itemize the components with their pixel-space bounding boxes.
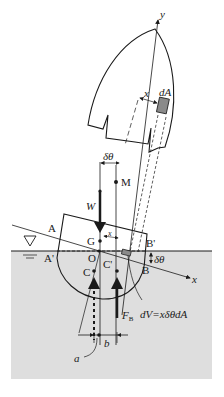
W-label: W bbox=[86, 200, 96, 212]
B-label: B bbox=[142, 264, 149, 276]
a-label: a bbox=[74, 352, 80, 364]
metacenter-point bbox=[114, 180, 118, 184]
x-axis-label: x bbox=[191, 273, 197, 285]
M-label: M bbox=[121, 176, 131, 188]
dV-label: dV=xδθdA bbox=[140, 308, 188, 320]
A-prime-label: A' bbox=[44, 252, 54, 264]
B-prime-label: B' bbox=[146, 237, 155, 249]
C-label: C bbox=[83, 266, 90, 278]
center-of-gravity-point bbox=[98, 239, 102, 243]
dim-point-a bbox=[97, 333, 101, 337]
water-level-symbol-icon bbox=[23, 236, 37, 258]
weight-arrowhead bbox=[94, 222, 106, 233]
x-distance-label: x bbox=[143, 87, 149, 99]
dtheta-top-label: δθ bbox=[103, 150, 114, 162]
C-prime-label: C' bbox=[103, 258, 112, 270]
dA-label: dA bbox=[159, 86, 172, 98]
y-axis-label: y bbox=[159, 8, 165, 20]
dtheta-right-label: δθ bbox=[154, 253, 165, 265]
center-of-buoyancy-C-prime bbox=[115, 269, 119, 273]
x-small-label: x bbox=[107, 229, 112, 238]
O-label: O bbox=[88, 252, 96, 264]
G-label: G bbox=[87, 235, 95, 247]
ship-stability-diagram: y dA x δθ M W x A A' B' B δθ G x O bbox=[0, 0, 224, 397]
A-label: A bbox=[48, 222, 56, 234]
weight-arrow-tail bbox=[98, 189, 101, 192]
origin-point bbox=[97, 249, 100, 252]
b-label: b bbox=[104, 337, 110, 349]
